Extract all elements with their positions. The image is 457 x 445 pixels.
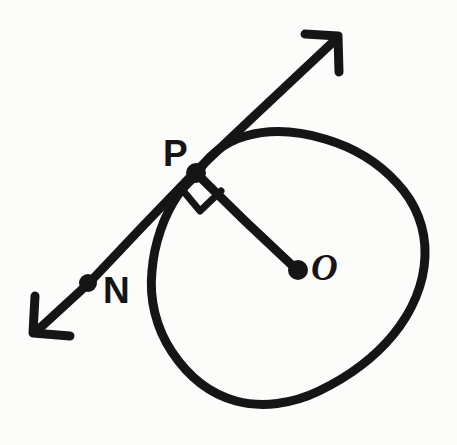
radius-segment-po (197, 174, 296, 269)
point-n-dot (79, 274, 97, 292)
point-p-label: P (163, 135, 188, 172)
point-o-dot (288, 260, 308, 280)
geometry-figure: P N O (0, 0, 457, 445)
geometry-canvas (0, 0, 457, 445)
point-o-label: O (311, 249, 338, 286)
point-p-dot (186, 163, 206, 183)
point-n-label: N (103, 272, 130, 309)
